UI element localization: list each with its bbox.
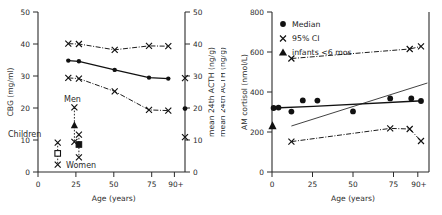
x-ticklabel-75: 75	[389, 180, 399, 189]
x-axis-title: Age (years)	[331, 194, 375, 203]
ry-ticklabel-50: 50	[193, 8, 203, 17]
lower-ci-line	[291, 128, 421, 141]
legend-label-ci: 95% CI	[292, 34, 320, 43]
legend-label-median: Median	[292, 20, 320, 29]
median-line	[68, 61, 168, 79]
x-axis-title: Age (years)	[92, 194, 136, 203]
y-ticklabel-50: 50	[21, 8, 31, 17]
legend-x-icon	[280, 36, 286, 42]
x-ticklabel-90p: 90+	[411, 180, 427, 189]
x-ticklabel-50: 50	[348, 180, 358, 189]
ry-ticklabel-40: 40	[193, 40, 203, 49]
y-axis-title: CBG (mg/ml)	[6, 68, 15, 117]
legend-triangle-icon	[279, 49, 287, 56]
ci-markers	[288, 43, 424, 144]
y-ticks	[267, 12, 272, 172]
y-ticklabel-400: 400	[250, 88, 264, 97]
ry-ticklabel-30: 30	[193, 72, 203, 81]
annotation-women: Women	[66, 161, 96, 170]
annotation-children: Children	[8, 130, 41, 139]
x-ticks	[272, 172, 418, 177]
cortisol-svg: 0 200 400 600 800 0 25 50 75 90+ Age (ye…	[221, 0, 442, 215]
y-axis-title-right: mean 24th ACTH (ng/g)	[207, 47, 216, 137]
children-cluster	[55, 140, 61, 168]
chart-panel-cortisol: 0 200 400 600 800 0 25 50 75 90+ Age (ye…	[221, 0, 442, 215]
women-cluster	[76, 132, 82, 161]
men-cluster	[71, 104, 78, 144]
y-ticklabel-30: 30	[21, 72, 31, 81]
legend: Median 95% CI infants <6 mos	[279, 20, 352, 57]
annotation-men: Men	[64, 95, 81, 104]
ry-ticklabel-10: 10	[193, 136, 203, 145]
y-ticklabel-0: 0	[259, 168, 264, 177]
y-ticklabel-0: 0	[25, 168, 30, 177]
ry-ticklabel-0: 0	[193, 168, 198, 177]
left-y-ticks	[33, 12, 38, 172]
x-ticklabel-75: 75	[147, 180, 157, 189]
cbg-svg: 0 10 20 30 40 50 0 10 20 30 40 50	[0, 0, 221, 215]
right-y-ticks	[185, 12, 190, 172]
x-ticklabel-25: 25	[71, 180, 81, 189]
infants-marker	[268, 121, 276, 129]
y-axis-title: AM cortisol (nmol/L)	[240, 54, 249, 130]
legend-circle-icon	[280, 21, 286, 27]
y-axis-title-outer: mean 24th ACTH (ng/g)	[221, 47, 227, 137]
x-ticklabel-50: 50	[109, 180, 119, 189]
upper-ci-line	[68, 44, 168, 50]
x-ticks	[38, 172, 174, 177]
ry-ticklabel-20: 20	[193, 104, 203, 113]
x-ticklabel-0: 0	[36, 180, 41, 189]
x-ticklabel-25: 25	[308, 180, 318, 189]
x-ticklabel-90p: 90+	[168, 180, 184, 189]
lower-ci-markers	[65, 75, 171, 114]
y-ticklabel-20: 20	[21, 104, 31, 113]
y-ticklabel-200: 200	[250, 128, 264, 137]
upper-ci-markers	[65, 41, 171, 53]
y-ticklabel-600: 600	[250, 48, 264, 57]
median-line	[274, 101, 421, 108]
x-ticklabel-0: 0	[270, 180, 275, 189]
y-ticklabel-800: 800	[250, 8, 264, 17]
legend-label-infants: infants <6 mos	[292, 48, 352, 57]
figure-container: 0 10 20 30 40 50 0 10 20 30 40 50	[0, 0, 442, 215]
chart-panel-cbg: 0 10 20 30 40 50 0 10 20 30 40 50	[0, 0, 221, 215]
y-ticklabel-40: 40	[21, 40, 31, 49]
lower-ci-line	[68, 78, 168, 111]
